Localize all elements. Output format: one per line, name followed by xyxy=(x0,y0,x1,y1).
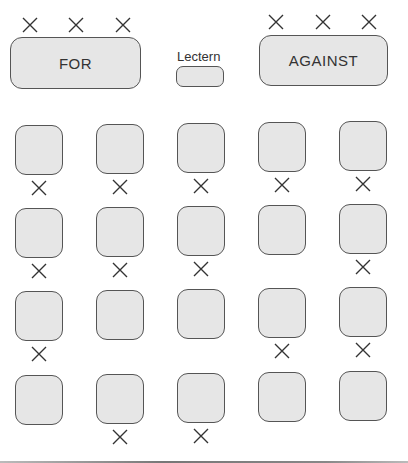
x-marker-icon xyxy=(315,14,331,30)
x-marker-icon xyxy=(268,14,284,30)
lectern xyxy=(176,66,224,87)
x-marker-icon xyxy=(22,17,38,33)
seat xyxy=(15,291,63,341)
x-marker-icon xyxy=(193,428,209,444)
seat xyxy=(339,287,387,337)
seat xyxy=(177,123,225,173)
lectern-label: Lectern xyxy=(177,49,220,64)
x-marker-icon xyxy=(115,17,131,33)
x-marker-icon xyxy=(112,429,128,445)
seat xyxy=(96,207,144,257)
x-marker-icon xyxy=(31,346,47,362)
against-table: AGAINST xyxy=(259,35,388,86)
seat xyxy=(15,208,63,258)
for-table: FOR xyxy=(10,37,141,89)
seat xyxy=(258,122,306,172)
seat xyxy=(258,372,306,422)
seat xyxy=(258,288,306,338)
x-marker-icon xyxy=(112,179,128,195)
x-marker-icon xyxy=(274,177,290,193)
x-marker-icon xyxy=(355,342,371,358)
x-marker-icon xyxy=(31,263,47,279)
x-marker-icon xyxy=(355,176,371,192)
against-table-label: AGAINST xyxy=(289,52,358,69)
x-marker-icon xyxy=(68,17,84,33)
seat xyxy=(339,371,387,421)
x-marker-icon xyxy=(274,343,290,359)
seat xyxy=(15,375,63,425)
x-marker-icon xyxy=(193,261,209,277)
x-marker-icon xyxy=(112,262,128,278)
x-marker-icon xyxy=(31,180,47,196)
seat xyxy=(15,125,63,175)
for-table-label: FOR xyxy=(59,55,92,72)
seat xyxy=(177,206,225,256)
seat xyxy=(96,124,144,174)
seat xyxy=(177,289,225,339)
seat xyxy=(96,374,144,424)
x-marker-icon xyxy=(361,14,377,30)
x-marker-icon xyxy=(355,259,371,275)
seat xyxy=(258,205,306,255)
seat xyxy=(339,121,387,171)
seat xyxy=(177,373,225,423)
x-marker-icon xyxy=(193,178,209,194)
seat xyxy=(339,204,387,254)
seat xyxy=(96,290,144,340)
